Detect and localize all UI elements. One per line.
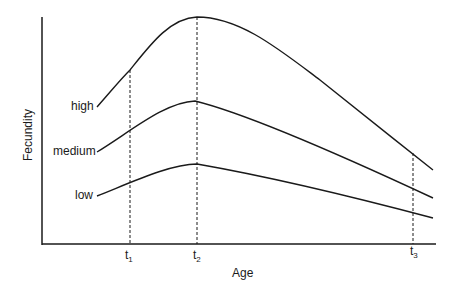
curve-low (97, 164, 433, 218)
tick-t3: t3 (410, 244, 418, 260)
x-axis-label: Age (232, 266, 253, 280)
tick-t2: t2 (193, 248, 201, 264)
tick-t1: t1 (125, 248, 133, 264)
label-low: low (75, 188, 93, 202)
curve-high (97, 17, 433, 170)
label-medium: medium (53, 144, 96, 158)
y-axis-label: Fecundity (21, 105, 35, 165)
curve-medium (97, 101, 433, 198)
label-high: high (71, 99, 94, 113)
